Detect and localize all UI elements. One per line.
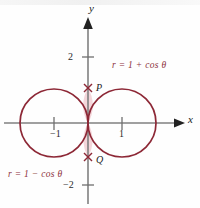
x-tick-label-1: 1 <box>119 129 124 139</box>
y-tick-label-neg2: −2 <box>63 180 74 190</box>
polar-curves-figure: y x −1 1 2 −2 P Q r = 1 + cos θ r = 1 − … <box>0 0 200 208</box>
y-axis-arrowhead <box>83 17 93 29</box>
curve-label-cardioid-plus: r = 1 + cos θ <box>112 61 166 71</box>
x-tick-label-neg1: −1 <box>50 129 61 139</box>
curve-label-cardioid-minus: r = 1 − cos θ <box>8 170 62 180</box>
x-axis-label: x <box>188 114 193 125</box>
point-label-p: P <box>96 83 102 93</box>
x-axis-arrowhead <box>174 119 185 128</box>
y-axis-label: y <box>89 3 94 14</box>
y-tick-label-2: 2 <box>68 52 73 62</box>
point-label-q: Q <box>96 155 103 165</box>
